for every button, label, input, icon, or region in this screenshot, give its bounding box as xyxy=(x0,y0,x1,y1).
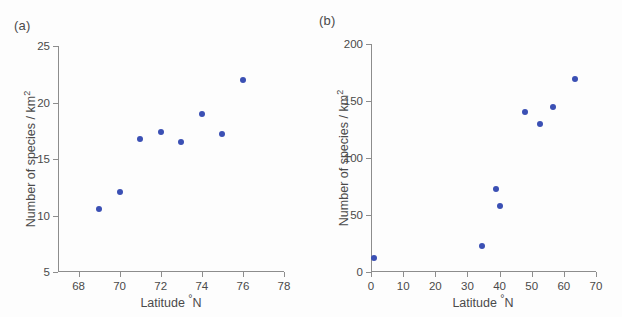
panel-a-x-tick-label: 76 xyxy=(237,280,250,292)
data-point xyxy=(537,121,543,127)
panel-b-x-tick xyxy=(435,272,436,277)
panel-b-x-tick-label: 50 xyxy=(525,280,538,292)
panel-b-y-tick xyxy=(366,101,371,102)
panel-a-x-tick xyxy=(284,272,285,277)
panel-b-x-tick xyxy=(500,272,501,277)
panel-b-x-tick xyxy=(467,272,468,277)
panel-b-x-tick-label: 40 xyxy=(493,280,506,292)
panel-a-y-tick-label: 5 xyxy=(44,266,50,278)
panel-b-x-tick xyxy=(564,272,565,277)
panel-b-x-tick-label: 60 xyxy=(557,280,570,292)
panel-a-x-tick-label: 74 xyxy=(195,280,208,292)
panel-b-x-tick-label: 10 xyxy=(397,280,410,292)
panel-b-x-tick-label: 0 xyxy=(368,280,374,292)
data-point xyxy=(158,129,164,135)
panel-a-label: (a) xyxy=(14,18,31,33)
data-point xyxy=(522,109,528,115)
panel-a-x-tick-label: 68 xyxy=(72,280,85,292)
panel-b-x-axis-title: Latitude °N xyxy=(452,296,513,310)
panel-b-label: (b) xyxy=(319,13,336,28)
data-point xyxy=(497,203,503,209)
panel-a-y-tick-label: 25 xyxy=(37,40,50,52)
panel-b-y-axis-title-exponent: 2 xyxy=(335,90,345,95)
panel-b-x-tick-label: 20 xyxy=(429,280,442,292)
panel-b-y-tick xyxy=(366,44,371,45)
panel-b-x-tick xyxy=(371,272,372,277)
panel-b-x-tick-label: 30 xyxy=(461,280,474,292)
panel-a-plot-area: 510152025687072747678 xyxy=(58,46,284,272)
panel-b-plot-area: 050100150200010203040506070 xyxy=(371,44,596,272)
panel-a-x-tick xyxy=(120,272,121,277)
data-point xyxy=(240,77,246,83)
panel-b-y-tick-label: 200 xyxy=(344,38,363,50)
panel-a-x-tick xyxy=(243,272,244,277)
panel-a-y-tick xyxy=(53,103,58,104)
panel-a-y-axis-title: Number of species / km2 xyxy=(24,91,38,227)
panel-a-y-tick-label: 20 xyxy=(37,97,50,109)
panel-a-y-tick-label: 15 xyxy=(37,153,50,165)
data-point xyxy=(550,104,556,110)
panel-b-y-axis-line xyxy=(371,44,372,272)
panel-a-x-tick xyxy=(202,272,203,277)
panel-a: (a) 510152025687072747678 Latitude °N Nu… xyxy=(0,0,311,317)
panel-a-y-axis-line xyxy=(58,46,59,272)
data-point xyxy=(178,139,184,145)
panel-b-y-tick-label: 0 xyxy=(357,266,363,278)
panel-b-y-axis-title: Number of species / km2 xyxy=(337,90,351,226)
panel-a-x-tick xyxy=(161,272,162,277)
data-point xyxy=(96,206,102,212)
panel-a-x-axis-line xyxy=(58,271,284,272)
panel-a-y-tick xyxy=(53,159,58,160)
panel-a-x-tick xyxy=(79,272,80,277)
data-point xyxy=(371,255,377,261)
panel-a-y-tick-label: 10 xyxy=(37,210,50,222)
panel-b-x-axis-title-text: Latitude xyxy=(452,296,500,310)
panel-b-y-tick xyxy=(366,158,371,159)
panel-b-y-tick xyxy=(366,215,371,216)
panel-b-x-tick xyxy=(403,272,404,277)
panel-a-y-tick xyxy=(53,46,58,47)
panel-b-x-axis-line xyxy=(371,271,596,272)
panel-a-x-tick-label: 78 xyxy=(278,280,291,292)
panel-b-x-tick xyxy=(596,272,597,277)
data-point xyxy=(493,186,499,192)
panel-a-x-axis-title: Latitude °N xyxy=(140,296,201,310)
data-point xyxy=(572,76,578,82)
panel-a-x-tick-label: 70 xyxy=(113,280,126,292)
panel-a-y-tick xyxy=(53,216,58,217)
data-point xyxy=(479,243,485,249)
panel-b: (b) 050100150200010203040506070 Latitude… xyxy=(311,0,622,317)
panel-b-x-tick-label: 70 xyxy=(590,280,603,292)
data-point xyxy=(219,131,225,137)
data-point xyxy=(117,189,123,195)
panel-a-y-axis-title-exponent: 2 xyxy=(22,91,32,96)
data-point xyxy=(137,136,143,142)
data-point xyxy=(199,111,205,117)
panel-a-y-tick xyxy=(53,272,58,273)
figure-canvas: (a) 510152025687072747678 Latitude °N Nu… xyxy=(0,0,622,317)
panel-b-y-tick-label: 50 xyxy=(350,209,363,221)
panel-b-y-axis-title-text: Number of species / km xyxy=(337,95,351,226)
panel-a-x-axis-title-tail: N xyxy=(193,296,202,310)
panel-b-x-axis-title-tail: N xyxy=(505,296,514,310)
panel-a-x-axis-title-text: Latitude xyxy=(140,296,188,310)
panel-a-y-axis-title-text: Number of species / km xyxy=(24,96,38,227)
panel-a-x-tick-label: 72 xyxy=(154,280,167,292)
panel-b-x-tick xyxy=(532,272,533,277)
